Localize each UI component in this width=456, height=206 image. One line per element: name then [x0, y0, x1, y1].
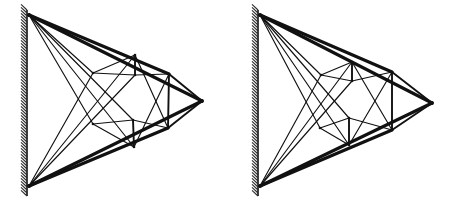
truss-joint-J — [167, 127, 170, 130]
truss-joint-C — [92, 72, 95, 75]
truss-joint-C — [320, 74, 323, 77]
truss-member-I-J — [168, 74, 169, 128]
truss-joint-K — [200, 99, 204, 103]
truss-joint-E — [351, 61, 354, 64]
truss-joint-D — [319, 127, 322, 130]
truss-joint-B — [258, 184, 262, 188]
truss-joint-D — [92, 123, 95, 126]
truss-joint-I — [168, 73, 171, 76]
truss-figure — [0, 0, 456, 206]
truss-joint-B — [27, 184, 31, 188]
truss-member-G-H — [133, 120, 134, 147]
truss-joint-F — [134, 74, 137, 77]
truss-diagram-canvas — [0, 0, 456, 206]
truss-joint-H — [348, 144, 351, 147]
truss-joint-K — [430, 101, 434, 105]
truss-joint-E — [134, 54, 137, 57]
truss-joint-I — [391, 71, 394, 74]
truss-joint-H — [133, 146, 136, 149]
truss-joint-A — [27, 13, 31, 17]
truss-joint-G — [132, 119, 135, 122]
truss-joint-F — [351, 80, 354, 83]
truss-joint-G — [348, 117, 351, 120]
truss-joint-J — [391, 129, 394, 132]
truss-joint-A — [258, 13, 262, 17]
